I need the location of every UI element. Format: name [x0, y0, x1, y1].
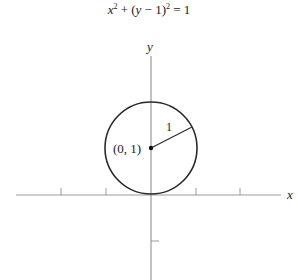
radius-label: 1: [166, 120, 172, 134]
coordinate-plot: y x (0, 1) 1: [0, 0, 298, 280]
center-label: (0, 1): [113, 141, 141, 156]
y-axis-label: y: [145, 39, 153, 54]
center-point: [149, 146, 153, 150]
x-axis-label: x: [286, 187, 293, 202]
